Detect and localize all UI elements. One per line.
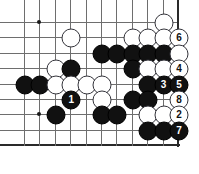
move-number-label: 3	[161, 79, 167, 89]
go-diagram: 64351827	[0, 0, 199, 174]
stone-black[interactable]	[108, 106, 127, 125]
stone-white[interactable]	[62, 29, 81, 48]
move-number-label: 7	[176, 125, 182, 135]
move-number-label: 8	[176, 95, 182, 105]
star-point	[37, 20, 41, 24]
move-number-label: 4	[176, 64, 182, 74]
move-number-label: 1	[68, 95, 74, 105]
stone-black[interactable]	[46, 106, 65, 125]
move-number-label: 5	[176, 79, 182, 89]
star-point	[37, 112, 41, 116]
move-number-label: 6	[176, 33, 182, 43]
grid-line-vertical	[86, 0, 87, 146]
go-board: 64351827	[0, 0, 199, 174]
grid-line-horizontal	[0, 144, 180, 146]
grid-line-horizontal	[0, 22, 179, 23]
grid-line-vertical	[24, 0, 25, 146]
move-stone-1-black[interactable]: 1	[62, 91, 81, 110]
move-number-label: 2	[176, 110, 182, 120]
move-stone-7-black[interactable]: 7	[170, 121, 189, 140]
